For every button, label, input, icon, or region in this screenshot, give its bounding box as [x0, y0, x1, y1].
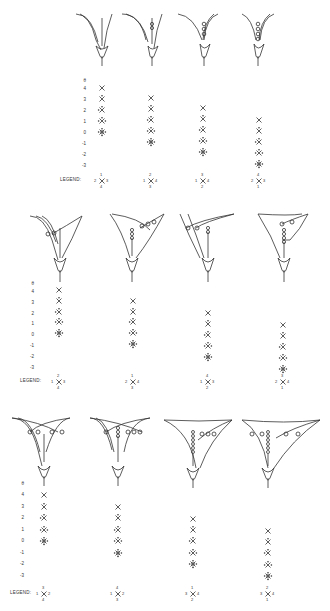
legend-top: 2 [57, 373, 59, 378]
legend-left: 1 [51, 379, 53, 384]
legend-right: 2 [48, 591, 50, 596]
symbol-column-r1-2 [147, 96, 155, 147]
symbol-column-r3-4 [264, 529, 272, 581]
legend-top: 1 [191, 585, 193, 590]
legend-left: 1 [36, 591, 38, 596]
symbol-column-r2-3 [204, 311, 212, 362]
legend-bottom: 1 [266, 597, 268, 602]
symbol-column-r1-3 [199, 106, 207, 157]
symbol-column-r3-1 [40, 493, 48, 546]
legend-bottom: 4 [100, 184, 102, 189]
legend-top: 2 [266, 585, 268, 590]
symbol-column-r3-3 [189, 517, 197, 569]
legend-bottom: 3 [149, 184, 151, 189]
legend-top: 2 [149, 172, 151, 177]
legend-right: 4 [137, 379, 139, 384]
legend-left: 3 [260, 591, 262, 596]
symbol-column-r2-4 [279, 323, 287, 374]
legend-left: 2 [275, 379, 277, 384]
legend-left: 1 [195, 178, 197, 183]
legend-bottom: 2 [191, 597, 193, 602]
symbol-column-r2-1 [55, 288, 63, 338]
legend-right: 4 [287, 379, 289, 384]
symbol-column-r1-4 [255, 118, 263, 169]
legend-top: 4 [257, 172, 259, 177]
legend-right: 3 [212, 379, 214, 384]
legend-bottom: 2 [201, 184, 203, 189]
legend-left: 1 [143, 178, 145, 183]
legend-right: 3 [263, 178, 265, 183]
legend-right: 4 [197, 591, 199, 596]
legend-right: 3 [63, 379, 65, 384]
legend-left: 2 [125, 379, 127, 384]
legend-left: 3 [185, 591, 187, 596]
legend-bottom: 3 [116, 597, 118, 602]
legend-top: 1 [100, 172, 102, 177]
legend-crosses [42, 179, 286, 597]
legend-right: 4 [207, 178, 209, 183]
legend-bottom: 2 [206, 385, 208, 390]
legend-top: 4 [206, 373, 208, 378]
legend-top: 4 [116, 585, 118, 590]
legend-bottom: 4 [42, 597, 44, 602]
legend-top: 3 [42, 585, 44, 590]
figure: θ 4 3 2 1 0 -1 -2 -3 LEGEND: θ 4 3 2 1 0… [0, 0, 330, 611]
legend-right: 4 [155, 178, 157, 183]
legend-left: 1 [200, 379, 202, 384]
legend-right: 4 [272, 591, 274, 596]
legend-bottom: 1 [281, 385, 283, 390]
legend-left: 2 [251, 178, 253, 183]
legend-bottom: 1 [257, 184, 259, 189]
symbol-column-r2-2 [129, 299, 137, 349]
legend-top: 3 [281, 373, 283, 378]
legend-left: 1 [110, 591, 112, 596]
legend-left: 2 [94, 178, 96, 183]
legend-top: 3 [201, 172, 203, 177]
symbol-column-r1-1 [98, 86, 106, 137]
legend-bottom: 3 [131, 385, 133, 390]
legend-bottom: 4 [57, 385, 59, 390]
legend-top: 1 [131, 373, 133, 378]
symbol-column-r3-2 [114, 505, 122, 558]
symbol-columns [0, 0, 330, 611]
legend-right: 2 [122, 591, 124, 596]
legend-right: 3 [106, 178, 108, 183]
